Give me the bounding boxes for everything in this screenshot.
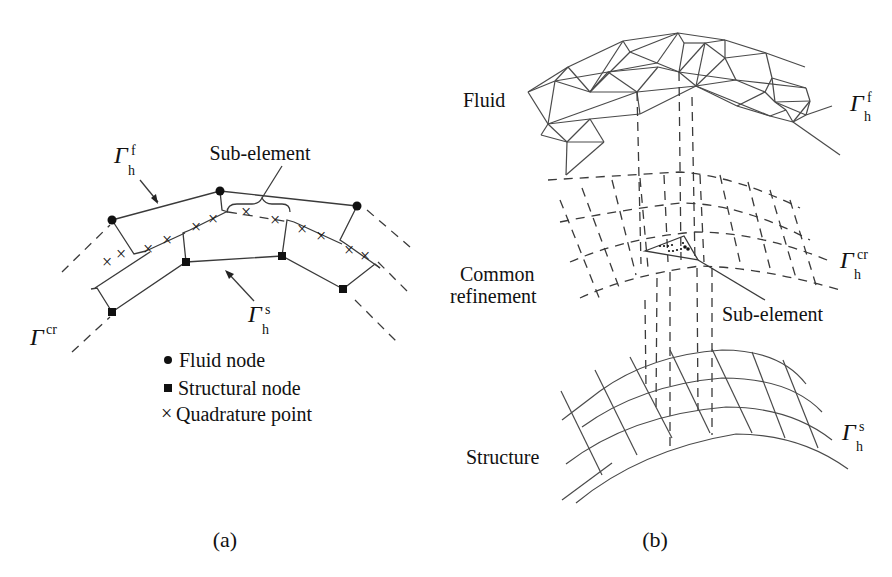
legend-item-quadrature-point: × Quadrature point <box>161 402 313 426</box>
common-refinement-radial <box>664 175 668 262</box>
structural-node-icon <box>182 258 190 266</box>
common-refinement-label-line2: refinement <box>450 285 537 307</box>
fluid-mesh-edge <box>623 33 678 41</box>
structure-mesh-column <box>712 349 752 433</box>
common-refinement-arc <box>570 232 832 262</box>
fluid-mesh-edge <box>705 43 725 58</box>
quadrature-point-icon: × <box>297 219 307 239</box>
fluid-mesh-edge <box>608 72 637 92</box>
structural-node-icon <box>278 252 286 260</box>
caption-a: (a) <box>213 527 237 552</box>
fluid-mesh-edge <box>775 101 810 102</box>
structure-mesh-column <box>670 350 710 433</box>
quadrature-point-icon: × <box>241 202 251 222</box>
fluid-mesh-edge <box>590 119 604 142</box>
fluid-mesh-edge <box>806 88 810 101</box>
fluid-mesh <box>528 33 840 175</box>
fluid-mesh-edge <box>766 53 772 78</box>
quadrature-point-icon: × <box>344 240 354 260</box>
diagram-canvas: × × × × × × × × × × × × Sub-e <box>0 0 892 577</box>
svg-text:h: h <box>128 163 135 178</box>
fluid-mesh-edge <box>696 86 770 116</box>
common-refinement-radial <box>582 188 620 290</box>
structural-node-icon <box>339 285 347 293</box>
fluid-mesh-edge <box>548 81 555 124</box>
svg-text:h: h <box>864 109 871 124</box>
structure-mesh-column <box>752 352 785 438</box>
structure-mesh-row <box>576 434 848 503</box>
fluid-interface-line <box>112 191 357 220</box>
fluid-mesh-edge <box>772 78 775 102</box>
fluid-interface-label: Γ h f <box>113 142 136 178</box>
structure-mesh <box>561 349 848 503</box>
sub-element-leader <box>262 166 282 198</box>
quadrature-point-icon: × <box>116 244 126 264</box>
svg-text:Fluid node: Fluid node <box>179 349 265 371</box>
common-refinement-label: Γ cr <box>29 322 57 350</box>
structure-mesh-row <box>566 407 832 464</box>
svg-text:s: s <box>265 302 270 317</box>
fluid-mesh-edge <box>566 142 604 175</box>
fluid-node-icon <box>164 356 172 364</box>
svg-text:Γ: Γ <box>839 247 855 273</box>
cr-interface-label-b: Γ h cr <box>839 247 868 282</box>
sub-element-leader <box>698 260 765 300</box>
quadrature-point-icon: × <box>191 217 201 237</box>
svg-text:f: f <box>131 143 136 158</box>
fluid-mesh-edge <box>725 53 766 58</box>
structure-interface-line <box>112 256 343 312</box>
common-refinement-arc <box>560 203 810 240</box>
quadrature-point-icon: × <box>161 402 172 424</box>
structure-mesh-column <box>595 370 637 455</box>
svg-text:Γ: Γ <box>849 90 865 116</box>
structure-interface-arrow <box>228 273 254 301</box>
fluid-label: Fluid <box>463 89 505 111</box>
projection-lines <box>91 191 380 312</box>
quadrature-point-icon: × <box>270 210 280 230</box>
caption-b: (b) <box>642 527 668 552</box>
legend-item-structural-node: Structural node <box>164 377 301 399</box>
common-refinement-radial <box>748 182 770 268</box>
fluid-mesh-edge <box>793 115 806 122</box>
common-refinement-label-line1: Common <box>460 263 534 285</box>
svg-text:h: h <box>854 267 861 282</box>
quadrature-point-icon: × <box>208 209 218 229</box>
panel-a: × × × × × × × × × × × × Sub-e <box>29 142 410 552</box>
svg-text:Γ: Γ <box>841 419 857 445</box>
fluid-mesh-edge <box>705 40 725 43</box>
fluid-interface-label-b: Γ h f <box>849 90 872 124</box>
structure-mesh-row <box>582 378 822 427</box>
svg-text:cr: cr <box>857 247 868 262</box>
panel-b: Sub-element Fluid Common refinement Stru… <box>450 33 872 552</box>
svg-text:cr: cr <box>46 322 57 337</box>
structural-node-icon <box>164 384 172 392</box>
quadrature-point-icon: × <box>360 246 370 266</box>
structure-label: Structure <box>466 446 539 468</box>
fluid-mesh-edge <box>623 41 630 52</box>
fluid-mesh-edge <box>590 114 640 119</box>
fluid-mesh-edge <box>528 92 548 124</box>
svg-text:s: s <box>859 419 864 434</box>
sub-element-brace <box>227 198 290 213</box>
fluid-mesh-edge <box>725 40 766 53</box>
svg-text:f: f <box>867 90 872 105</box>
legend: Fluid node Structural node × Quadrature … <box>161 349 313 426</box>
legend-item-fluid-node: Fluid node <box>164 349 265 371</box>
svg-text:Γ: Γ <box>29 324 45 350</box>
quadrature-point-icon: × <box>143 239 153 259</box>
fluid-mesh-edge <box>806 106 832 115</box>
fluid-mesh-edge <box>793 122 840 155</box>
structure-interface-label-b: Γ h s <box>841 419 864 454</box>
fluid-mesh-edge <box>637 67 658 92</box>
sub-element-label-b: Sub-element <box>722 303 824 325</box>
fluid-mesh-edge <box>770 110 786 116</box>
quadrature-point-icon: × <box>316 226 326 246</box>
fluid-mesh-edge <box>775 102 806 115</box>
fluid-mesh-edge <box>566 142 567 175</box>
fluid-mesh-edge <box>567 119 590 142</box>
common-refinement-arc <box>548 172 800 208</box>
common-refinement-arc <box>580 266 840 298</box>
fluid-node-icon <box>353 202 362 211</box>
svg-text:Quadrature point: Quadrature point <box>176 403 313 426</box>
sub-element-label: Sub-element <box>209 142 311 164</box>
